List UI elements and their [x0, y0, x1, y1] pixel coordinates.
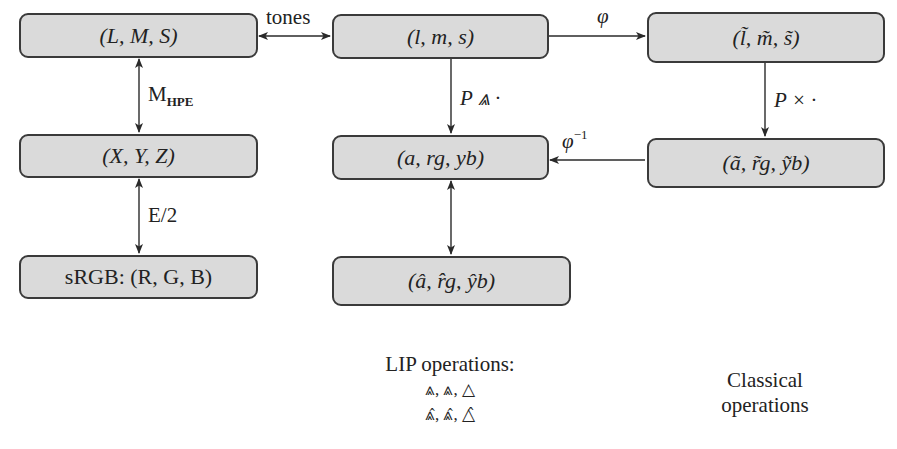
- node-sRGB-label: sRGB: (R, G, B): [65, 264, 212, 290]
- legend-lip: LIP operations: ⩓, ⩓, △ ⩓̂, ⩓̂, △̂: [340, 352, 560, 427]
- node-LMS-label: (L, M, S): [99, 23, 177, 49]
- edge-label-mhpe-sub: HPE: [167, 94, 194, 109]
- node-sRGB: sRGB: (R, G, B): [19, 255, 258, 299]
- edge-label-phi-inverse-sup: −1: [574, 127, 588, 142]
- node-lms: (l, m, s): [332, 14, 549, 59]
- legend-lip-row1: ⩓, ⩓, △: [340, 377, 560, 402]
- legend-classical-line2: operations: [680, 393, 850, 418]
- node-lms-label: (l, m, s): [407, 24, 474, 50]
- node-argyb-tilde: (ã, r̃g, ỹb): [647, 138, 885, 188]
- edge-label-p-lip: P ⩓ ·: [460, 86, 500, 111]
- node-XYZ: (X, Y, Z): [19, 134, 258, 178]
- node-argyb-label: (a, rg, yb): [397, 145, 484, 171]
- legend-lip-row2: ⩓̂, ⩓̂, △̂: [340, 402, 560, 427]
- node-lms-tilde: (l̃, m̃, s̃): [647, 12, 885, 63]
- node-argyb-tilde-label: (ã, r̃g, ỹb): [722, 150, 809, 176]
- legend-lip-title: LIP operations:: [340, 352, 560, 377]
- legend-classical: Classical operations: [680, 368, 850, 418]
- legend-classical-line1: Classical: [680, 368, 850, 393]
- edge-label-mhpe: MHPE: [148, 82, 193, 110]
- edge-label-tones: tones: [266, 5, 310, 30]
- edge-label-p-times: P × ·: [774, 88, 816, 113]
- edge-label-phi-inverse-main: φ: [562, 129, 574, 153]
- node-LMS: (L, M, S): [19, 13, 258, 58]
- node-argyb-hat: (â, r̂g, ŷb): [332, 256, 571, 306]
- edge-label-phi: φ: [597, 4, 609, 29]
- edge-label-phi-inverse: φ−1: [562, 127, 587, 154]
- node-XYZ-label: (X, Y, Z): [102, 143, 175, 169]
- edge-label-mhpe-main: M: [148, 82, 167, 106]
- node-lms-tilde-label: (l̃, m̃, s̃): [732, 25, 799, 51]
- edge-label-e2: E/2: [148, 203, 177, 228]
- node-argyb: (a, rg, yb): [332, 135, 549, 180]
- node-argyb-hat-label: (â, r̂g, ŷb): [408, 268, 495, 294]
